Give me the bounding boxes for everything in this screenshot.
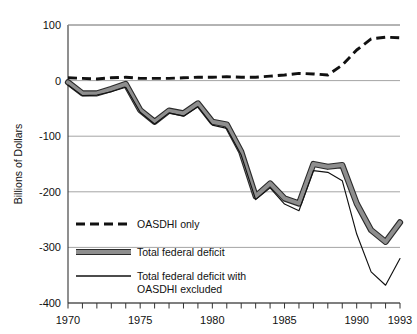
y-tick-label: -400 [39,297,61,309]
legend-label: OASDHI only [137,218,200,230]
y-tick-label: -100 [39,130,61,142]
y-axis-label: Billions of Dollars [12,124,24,205]
y-tick-label: 0 [55,75,61,87]
x-tick-label: 1970 [56,314,80,326]
chart-container: 1000-100-200-300-400 1970197519801985199… [0,0,417,334]
legend-label: Total federal deficit with [137,270,246,282]
legend-label-line2: OASDHI excluded [137,283,222,295]
x-tick-label: 1993 [388,314,412,326]
legend-label: Total federal deficit [137,246,225,258]
deficit-line-chart: 1000-100-200-300-400 1970197519801985199… [0,0,417,334]
y-axis-title: Billions of Dollars [12,124,24,205]
x-tick-label: 1975 [128,314,152,326]
y-tick-label: -200 [39,186,61,198]
y-tick-label: -300 [39,241,61,253]
x-tick-label: 1990 [344,314,368,326]
x-tick-label: 1985 [272,314,296,326]
y-tick-label: 100 [43,19,61,31]
x-tick-label: 1980 [200,314,224,326]
